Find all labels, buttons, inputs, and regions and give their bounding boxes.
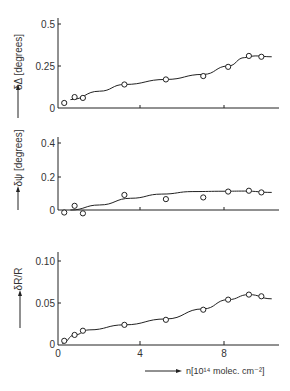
data-point bbox=[163, 77, 168, 82]
ytick-mid-2: 0 bbox=[49, 205, 55, 216]
data-point bbox=[80, 328, 85, 333]
data-point bbox=[226, 189, 231, 194]
data-series-bottom bbox=[62, 292, 272, 343]
ytick-bot-1: 0.05 bbox=[36, 298, 56, 309]
panel-delta-r: 0.10 0.05 0 0 4 8 δR/R n[10¹⁴ molec. cm⁻… bbox=[13, 252, 279, 376]
data-point bbox=[259, 190, 264, 195]
chart-figure: 0.5 0.25 0 δΔ [degrees] 0.4 0.2 0 δψ [de… bbox=[0, 0, 290, 391]
ytick-top-2: 0 bbox=[49, 103, 55, 114]
fit-curve bbox=[70, 191, 271, 210]
data-point bbox=[72, 332, 77, 337]
xtick-0: 0 bbox=[55, 348, 61, 359]
ytick-mid-0: 0.4 bbox=[41, 138, 55, 149]
data-point bbox=[226, 64, 231, 69]
ytick-top-0: 0.5 bbox=[41, 19, 55, 30]
data-point bbox=[201, 307, 206, 312]
data-series-middle bbox=[62, 188, 272, 216]
data-point bbox=[122, 82, 127, 87]
xtick-2: 8 bbox=[221, 348, 227, 359]
data-point bbox=[122, 322, 127, 327]
data-point bbox=[246, 292, 251, 297]
data-point bbox=[163, 317, 168, 322]
ytick-bot-0: 0.10 bbox=[36, 256, 56, 267]
data-point bbox=[163, 197, 168, 202]
data-point bbox=[62, 100, 67, 105]
arrow-icon bbox=[145, 369, 182, 373]
arrow-icon bbox=[18, 290, 22, 328]
data-point bbox=[62, 338, 67, 343]
data-point bbox=[62, 210, 67, 215]
ylabel-top: δΔ [degrees] bbox=[13, 34, 24, 90]
arrow-icon bbox=[16, 84, 20, 118]
data-point bbox=[246, 188, 251, 193]
data-point bbox=[80, 95, 85, 100]
arrow-icon bbox=[16, 186, 20, 210]
data-point bbox=[72, 203, 77, 208]
data-point bbox=[259, 54, 264, 59]
ytick-top-1: 0.25 bbox=[36, 61, 56, 72]
panel-delta-delta: 0.5 0.25 0 δΔ [degrees] bbox=[13, 18, 279, 118]
data-point bbox=[259, 294, 264, 299]
data-point bbox=[122, 192, 127, 197]
data-point bbox=[201, 73, 206, 78]
panel-delta-psi: 0.4 0.2 0 δψ [degrees] bbox=[13, 129, 279, 216]
fit-curve bbox=[70, 56, 271, 100]
xlabel: n[10¹⁴ molec. cm⁻²] bbox=[186, 366, 264, 376]
data-point bbox=[72, 94, 77, 99]
ylabel-mid: δψ [degrees] bbox=[13, 129, 24, 186]
xtick-1: 4 bbox=[137, 348, 143, 359]
data-point bbox=[80, 211, 85, 216]
data-series-top bbox=[62, 53, 272, 105]
data-point bbox=[201, 195, 206, 200]
ytick-mid-1: 0.2 bbox=[41, 172, 55, 183]
data-point bbox=[246, 53, 251, 58]
data-point bbox=[226, 297, 231, 302]
ylabel-bot: δR/R bbox=[13, 268, 24, 291]
